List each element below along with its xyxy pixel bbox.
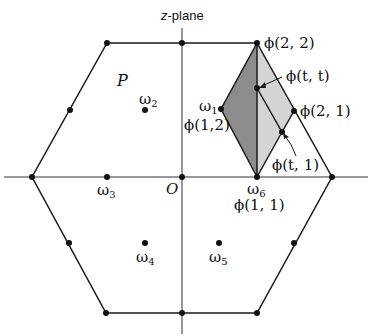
point-hex-bottom-left <box>103 310 109 316</box>
omega1-symbol: ω <box>199 97 211 115</box>
omega3-symbol: ω <box>97 181 109 199</box>
point-bottom-axis <box>179 310 185 316</box>
omega2-subscript: 2 <box>151 98 157 109</box>
dark-shaded-region <box>221 43 257 177</box>
label-phit1: ϕ(t, 1) <box>272 158 319 173</box>
diagram-title: z-plane <box>161 9 204 22</box>
label-phi21: ϕ(2, 1) <box>300 104 351 119</box>
label-phi12: ϕ(1,2) <box>184 118 230 133</box>
point-hex-top-left <box>104 40 110 46</box>
point-right-lower-mid <box>291 240 297 246</box>
omega4-subscript: 4 <box>148 256 154 267</box>
point-hex-right <box>329 174 335 180</box>
label-phi22: ϕ(2, 2) <box>264 36 315 51</box>
omega5-subscript: 5 <box>221 256 227 267</box>
label-origin: O <box>166 182 178 197</box>
label-P: P <box>117 73 128 89</box>
point-hex-left <box>29 174 35 180</box>
omega5-symbol: ω <box>209 248 221 266</box>
label-omega1: ω1 <box>199 99 218 116</box>
point-omega3 <box>104 174 110 180</box>
omega3-subscript: 3 <box>109 189 115 200</box>
point-phit1 <box>279 129 285 135</box>
point-phi21 <box>291 108 297 114</box>
label-omega2: ω2 <box>139 92 158 109</box>
point-left-lower-mid <box>66 240 72 246</box>
label-omega4: ω4 <box>136 250 155 267</box>
omega4-symbol: ω <box>136 248 148 266</box>
label-omega3: ω3 <box>97 183 116 200</box>
label-phi11: ϕ(1, 1) <box>234 198 285 213</box>
omega2-symbol: ω <box>139 90 151 108</box>
point-top-axis <box>179 40 185 46</box>
point-hex-bottom-right <box>254 310 260 316</box>
point-omega4 <box>142 240 148 246</box>
label-phitt: ϕ(t, t) <box>286 69 330 84</box>
point-left-upper-mid <box>67 107 73 113</box>
z-plane-diagram: z-plane P O ω2 ω3 ω4 ω5 ω6 ω1 ϕ(2, 2) ϕ(… <box>0 0 372 336</box>
point-phi22 <box>254 40 260 46</box>
point-omega1 <box>218 106 224 112</box>
point-phitt <box>254 85 260 91</box>
omega1-subscript: 1 <box>211 105 217 116</box>
point-omega5 <box>216 240 222 246</box>
point-origin <box>179 174 185 180</box>
title-text: -plane <box>168 8 204 23</box>
arrow-phit1 <box>285 136 296 156</box>
label-omega5: ω5 <box>209 250 228 267</box>
